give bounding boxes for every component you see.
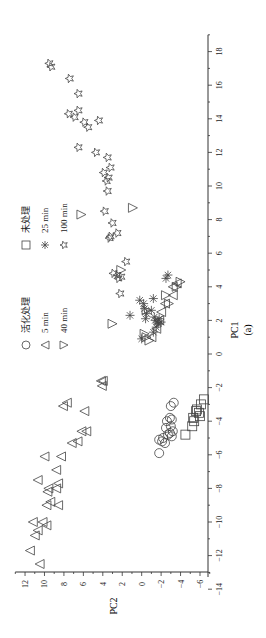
x-tick-label: −10: [215, 516, 224, 529]
x-tick-label: 10: [215, 182, 224, 190]
y-tick-label: −2: [157, 580, 166, 589]
legend-item: 40 min: [59, 307, 69, 349]
figure-caption: (a): [242, 324, 254, 335]
y-tick-label: 8: [60, 582, 69, 586]
y-tick-label: 6: [79, 582, 88, 586]
y-tick-label: −6: [196, 580, 205, 589]
y-tick-label: −4: [177, 580, 186, 589]
y-tick-label: 10: [40, 580, 49, 588]
x-axis-label: PC1: [229, 321, 240, 338]
legend-label: 5 min: [40, 312, 50, 333]
x-tick-label: 12: [215, 148, 224, 156]
legend: 活化处理未处理5 min25 min40 min100 min: [20, 203, 69, 349]
legend-label: 25 min: [40, 207, 50, 233]
x-tick-label: 8: [215, 218, 224, 222]
x-tick-label: 6: [215, 251, 224, 255]
legend-item: 25 min: [40, 207, 50, 249]
legend-label: 40 min: [59, 307, 69, 333]
legend-item: 5 min: [40, 312, 50, 349]
y-tick-label: 0: [138, 582, 147, 586]
x-tick-label: 0: [215, 352, 224, 356]
legend-item: 100 min: [59, 203, 69, 249]
x-tick-label: 16: [215, 81, 224, 89]
data-points: [25, 59, 208, 568]
x-tick-label: 4: [215, 285, 224, 289]
y-axis-label: PC2: [108, 597, 119, 614]
series-circle: [155, 398, 179, 457]
x-tick-label: −14: [215, 583, 224, 596]
x-tick-label: 18: [215, 48, 224, 56]
legend-label: 活化处理: [20, 297, 31, 333]
legend-item: 活化处理: [20, 297, 31, 349]
x-tick-label: −4: [215, 417, 224, 426]
x-tick-label: 2: [215, 318, 224, 322]
x-tick-label: 14: [215, 115, 224, 123]
x-tick-label: −8: [215, 484, 224, 493]
legend-label: 未处理: [20, 206, 31, 233]
y-tick-label: 12: [21, 580, 30, 588]
scatter-plot: −14−12−10−8−6−4−2024681012141618−6−4−202…: [0, 0, 266, 638]
x-tick-label: −6: [215, 451, 224, 460]
legend-item: 未处理: [20, 206, 31, 249]
legend-label: 100 min: [59, 203, 69, 233]
series-square: [181, 395, 208, 439]
y-tick-label: 2: [118, 582, 127, 586]
x-tick-label: −12: [215, 549, 224, 562]
series-asterisk: [126, 271, 173, 344]
y-tick-label: 4: [99, 582, 108, 586]
x-tick-label: −2: [215, 383, 224, 392]
series-star: [45, 59, 130, 298]
